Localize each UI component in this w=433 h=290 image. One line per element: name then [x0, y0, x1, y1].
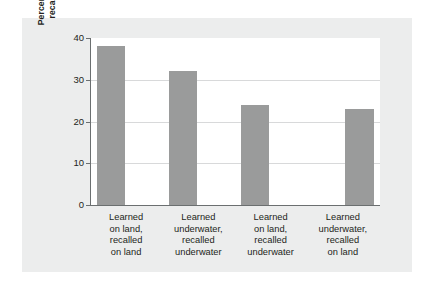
- y-tick-label-40: 40: [44, 33, 84, 43]
- gridline-20: [91, 122, 380, 123]
- x-label-2-line-4: underwater: [162, 247, 234, 259]
- x-label-category-4: Learned underwater, recalled on land: [307, 212, 379, 270]
- figure: Percentage of words recalled correctly 4…: [0, 0, 433, 290]
- y-axis-tick-labels: 40 30 20 10 0: [42, 38, 84, 205]
- y-tick-label-0: 0: [44, 200, 84, 210]
- gridline-30: [91, 80, 380, 81]
- x-label-category-3: Learned on land, recalled underwater: [235, 212, 307, 270]
- x-label-2-line-2: underwater,: [162, 224, 234, 236]
- bar-learned-on-land-recalled-underwater[interactable]: [241, 105, 269, 205]
- x-label-2-line-1: Learned: [162, 212, 234, 224]
- x-label-category-2: Learned underwater, recalled underwater: [162, 212, 234, 270]
- x-label-3-line-2: on land,: [235, 224, 307, 236]
- bar-learned-underwater-recalled-underwater[interactable]: [169, 71, 197, 205]
- y-tick-mark-10: [86, 163, 91, 164]
- x-label-3-line-3: recalled: [235, 235, 307, 247]
- x-label-4-line-1: Learned: [307, 212, 379, 224]
- x-label-2-line-3: recalled: [162, 235, 234, 247]
- y-tick-mark-0: [86, 205, 91, 206]
- x-label-4-line-4: on land: [307, 247, 379, 259]
- bar-learned-underwater-recalled-on-land[interactable]: [345, 109, 374, 205]
- x-axis-category-labels: Learned on land, recalled on land Learne…: [90, 212, 379, 270]
- y-tick-mark-30: [86, 80, 91, 81]
- x-label-4-line-2: underwater,: [307, 224, 379, 236]
- x-label-1-line-1: Learned: [90, 212, 162, 224]
- x-label-1-line-2: on land,: [90, 224, 162, 236]
- x-label-1-line-4: on land: [90, 247, 162, 259]
- gridline-10: [91, 163, 380, 164]
- x-label-1-line-3: recalled: [90, 235, 162, 247]
- x-label-4-line-3: recalled: [307, 235, 379, 247]
- y-tick-label-10: 10: [44, 158, 84, 168]
- plot-area: [90, 38, 380, 206]
- y-tick-mark-40: [86, 38, 91, 39]
- x-label-category-1: Learned on land, recalled on land: [90, 212, 162, 270]
- bar-learned-on-land-recalled-on-land[interactable]: [97, 46, 125, 205]
- y-tick-label-30: 30: [44, 75, 84, 85]
- x-label-3-line-1: Learned: [235, 212, 307, 224]
- x-label-3-line-4: underwater: [235, 247, 307, 259]
- y-tick-label-20: 20: [44, 117, 84, 127]
- y-tick-mark-20: [86, 122, 91, 123]
